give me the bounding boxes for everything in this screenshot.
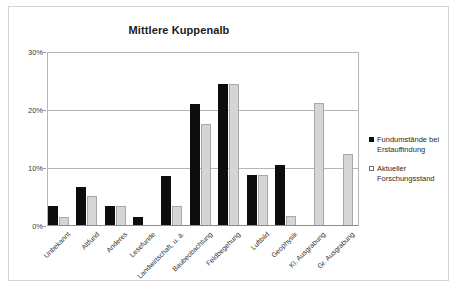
bar-group bbox=[160, 52, 188, 226]
plot-area bbox=[47, 52, 359, 226]
y-tick-mark bbox=[43, 110, 46, 111]
x-axis: UnbekanntAltfundAnderesLesefundeLandwirt… bbox=[47, 226, 359, 286]
y-tick-label: 20% bbox=[9, 106, 43, 115]
x-tick-label-text: Anderes bbox=[105, 230, 128, 253]
chart-frame: Mittlere Kuppenalb 0%10%20%30% Unbekannt… bbox=[8, 6, 449, 281]
legend-swatch-icon bbox=[369, 166, 374, 171]
y-axis: 0%10%20%30% bbox=[9, 52, 43, 226]
legend-swatch-icon bbox=[369, 137, 374, 142]
legend-label: Fundumstände beiErstauffindung bbox=[377, 135, 439, 155]
legend-item[interactable]: AktuellerForschungsstand bbox=[369, 164, 459, 184]
chart-title: Mittlere Kuppenalb bbox=[9, 24, 349, 36]
bar-group bbox=[302, 52, 330, 226]
bar bbox=[343, 154, 353, 226]
legend-item[interactable]: Fundumstände beiErstauffindung bbox=[369, 135, 459, 155]
bar bbox=[286, 216, 296, 226]
bar-group bbox=[132, 52, 160, 226]
x-tick-label-text: Luftbild bbox=[249, 230, 270, 251]
bar-group bbox=[104, 52, 132, 226]
bar-group bbox=[75, 52, 103, 226]
y-tick-mark bbox=[43, 168, 46, 169]
y-tick-label: 30% bbox=[9, 48, 43, 57]
bar bbox=[116, 206, 126, 226]
legend-label: AktuellerForschungsstand bbox=[377, 164, 435, 184]
bar bbox=[218, 84, 228, 226]
y-tick-label: 0% bbox=[9, 222, 43, 231]
x-tick-label-text: Lesefunde bbox=[129, 230, 157, 258]
y-tick-label: 10% bbox=[9, 164, 43, 173]
bar-group bbox=[274, 52, 302, 226]
x-tick-label-text: Geophysik bbox=[270, 230, 298, 258]
x-tick-label-text: Unbekannt bbox=[43, 230, 72, 259]
chart-legend: Fundumstände beiErstauffindungAktuellerF… bbox=[369, 135, 459, 193]
y-tick-mark bbox=[43, 52, 46, 53]
x-tick-label-text: Altfund bbox=[80, 230, 100, 250]
bar bbox=[48, 206, 58, 226]
bar-group bbox=[47, 52, 75, 226]
y-tick-mark bbox=[43, 226, 46, 227]
